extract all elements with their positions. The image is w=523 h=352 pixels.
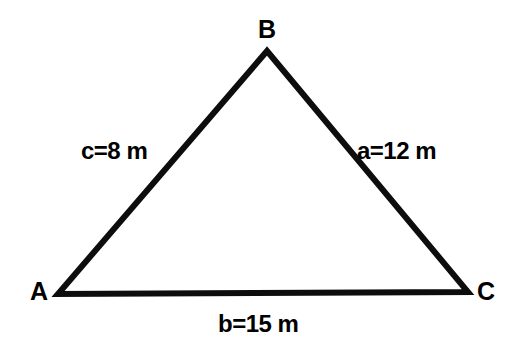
side-label-c: c=8 m <box>81 139 147 163</box>
side-label-b: b=15 m <box>218 312 298 336</box>
vertex-label-b: B <box>258 17 276 42</box>
triangle-diagram: B A C c=8 m a=12 m b=15 m <box>0 0 523 352</box>
triangle-shape <box>58 51 468 294</box>
side-label-a: a=12 m <box>357 139 436 163</box>
vertex-label-c: C <box>477 279 495 304</box>
vertex-label-a: A <box>30 279 48 304</box>
triangle-outline-svg <box>0 0 523 352</box>
